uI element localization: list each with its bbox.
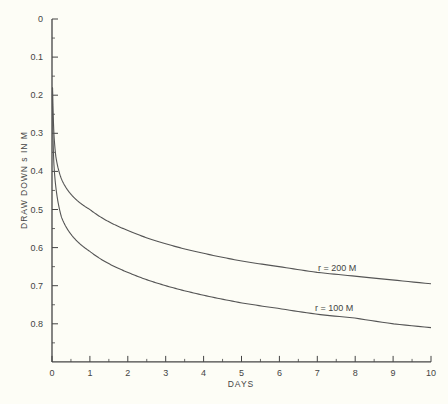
x-tick-label: 6 (277, 368, 282, 378)
y-tick-label: 0.3 (30, 128, 43, 138)
x-tick-label: 5 (239, 368, 244, 378)
x-tick-label: 2 (125, 368, 130, 378)
x-tick-label: 4 (201, 368, 206, 378)
curve-r200 (53, 88, 432, 284)
x-tick-label: 8 (353, 368, 358, 378)
x-tick-label: 10 (426, 368, 436, 378)
x-axis-ticks: 012345678910 (49, 356, 436, 378)
y-tick-label: 0.2 (30, 90, 43, 100)
x-tick-label: 0 (49, 368, 54, 378)
y-tick-label: 0.6 (30, 243, 43, 253)
y-tick-label: 0.5 (30, 205, 43, 215)
curve-label-r200: r = 200 M (318, 263, 356, 273)
y-tick-label: 0.4 (30, 166, 43, 176)
drawdown-chart: 00.10.20.30.40.50.60.70.8 012345678910 D… (0, 0, 448, 404)
axes (52, 19, 431, 362)
y-tick-label: 0.7 (30, 281, 43, 291)
y-tick-label: 0.1 (30, 52, 43, 62)
y-axis-ticks: 00.10.20.30.40.50.60.70.8 (30, 14, 58, 343)
y-axis-title: DRAW DOWN s IN M (19, 131, 29, 229)
y-tick-label: 0 (38, 14, 43, 24)
x-tick-label: 7 (315, 368, 320, 378)
x-tick-label: 9 (391, 368, 396, 378)
x-axis-title: DAYS (228, 379, 255, 389)
x-tick-label: 3 (163, 368, 168, 378)
y-tick-label: 0.8 (30, 319, 43, 329)
x-tick-label: 1 (87, 368, 92, 378)
curves (52, 88, 431, 328)
curve-label-r100: r = 100 M (315, 303, 353, 313)
curve-r100 (52, 88, 431, 328)
